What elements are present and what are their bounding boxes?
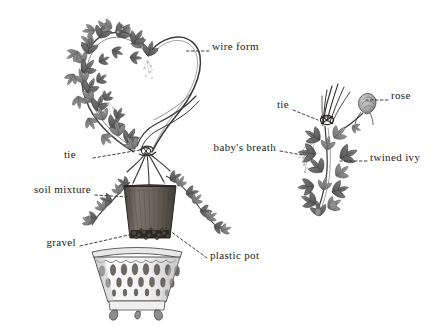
detail-sprig-group <box>297 84 376 218</box>
label-babys-breath: baby's breath <box>180 142 276 153</box>
twined-ivy-shape <box>297 122 361 218</box>
figure-canvas: wire form tie soil mixture gravel plasti… <box>0 0 448 333</box>
plant-stems <box>127 153 170 185</box>
label-gravel: gravel <box>0 237 76 248</box>
label-wire-form: wire form <box>212 41 259 52</box>
label-tie-left: tie <box>0 149 76 160</box>
cachepot-shape <box>92 248 182 321</box>
heart-topiary-group <box>62 16 233 320</box>
garland-blossoms <box>104 28 153 113</box>
leader-tie-right <box>293 110 318 120</box>
cachepot-feet <box>109 310 162 320</box>
trailing-ivy-right <box>166 168 233 236</box>
label-tie-right: tie <box>250 99 289 110</box>
leader-tie-left <box>93 150 140 158</box>
label-soil-mixture: soil mixture <box>0 184 91 195</box>
label-plastic-pot: plastic pot <box>210 250 259 261</box>
tie-knot-right <box>320 115 334 124</box>
label-rose: rose <box>391 90 411 101</box>
plastic-pot-shape <box>124 185 176 240</box>
leader-gravel <box>80 234 133 246</box>
label-twined-ivy: twined ivy <box>370 152 420 163</box>
leader-soil-mixture <box>95 195 128 197</box>
